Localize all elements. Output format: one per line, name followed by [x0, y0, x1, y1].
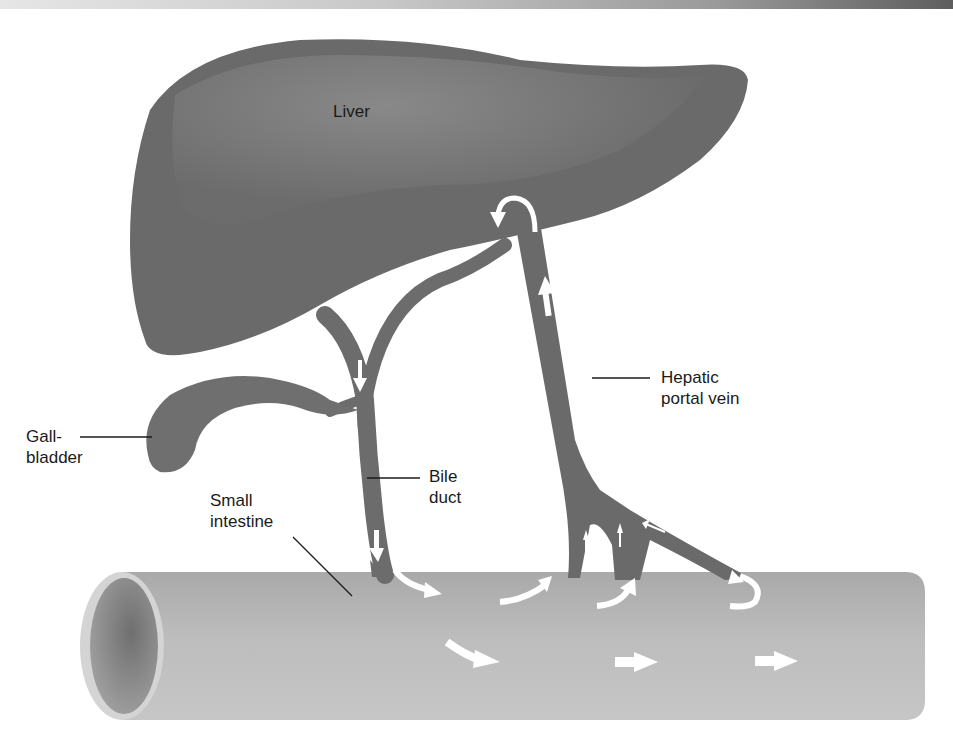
label-hepatic-portal-vein: Hepatic portal vein — [661, 367, 739, 409]
label-bile-duct: Bile duct — [429, 466, 461, 508]
liver — [130, 39, 748, 355]
label-small-intestine: Small intestine — [210, 490, 273, 532]
label-small-intestine-line1: Small — [210, 490, 273, 511]
intestine-lumen — [90, 578, 158, 714]
label-gallbladder: Gall- bladder — [26, 426, 83, 468]
label-bile-duct-line2: duct — [429, 487, 461, 508]
small-intestine — [80, 572, 925, 720]
label-liver: Liver — [333, 101, 370, 122]
liver-circulation-diagram — [0, 0, 953, 739]
label-gallbladder-line2: bladder — [26, 447, 83, 468]
label-gallbladder-line1: Gall- — [26, 426, 83, 447]
label-hepatic-portal-vein-line2: portal vein — [661, 388, 739, 409]
label-small-intestine-line2: intestine — [210, 511, 273, 532]
label-hepatic-portal-vein-line1: Hepatic — [661, 367, 739, 388]
label-bile-duct-line1: Bile — [429, 466, 461, 487]
gallbladder — [146, 376, 358, 472]
